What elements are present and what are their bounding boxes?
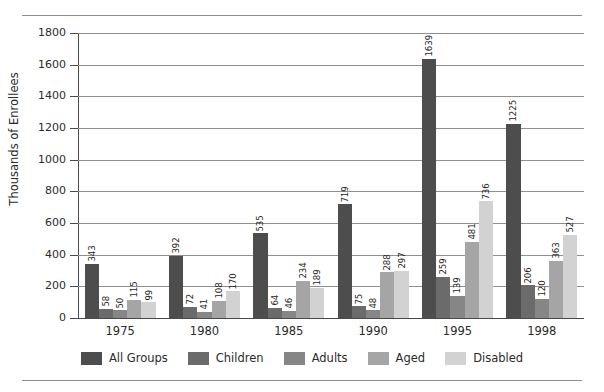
bar-value-label: 189 <box>313 270 322 286</box>
y-axis-tick-label: 1400 <box>20 89 66 102</box>
bar-group: 1225206120363527 <box>506 33 577 318</box>
bar-value-label: 736 <box>482 183 491 199</box>
bar-value-label: 719 <box>340 186 349 202</box>
y-axis-tick <box>70 286 78 287</box>
bar-group: 1639259139481736 <box>422 33 493 318</box>
legend-item-label: Aged <box>396 351 426 365</box>
x-axis-tick-label: 1998 <box>500 324 584 338</box>
legend-item-label: All Groups <box>109 351 168 365</box>
y-axis-tick <box>70 33 78 34</box>
bar-value-label: 1225 <box>509 100 518 122</box>
bar[interactable]: 50 <box>113 310 127 318</box>
bar-value-label: 120 <box>538 281 547 297</box>
figure-bottom-rule <box>22 380 582 381</box>
bar[interactable]: 46 <box>282 311 296 318</box>
y-axis-tick <box>70 96 78 97</box>
bar[interactable]: 481 <box>465 242 479 318</box>
bar[interactable]: 343 <box>85 264 99 318</box>
bar[interactable]: 108 <box>212 301 226 318</box>
bar-value-label: 48 <box>369 297 378 308</box>
bar-value-label: 50 <box>116 297 125 308</box>
bar-value-label: 259 <box>439 259 448 275</box>
y-axis-tick <box>70 160 78 161</box>
bar[interactable]: 206 <box>521 285 535 318</box>
y-axis-tick-label: 0 <box>20 311 66 324</box>
bar[interactable]: 48 <box>366 310 380 318</box>
legend-item-children[interactable]: Children <box>188 351 264 365</box>
bar[interactable]: 736 <box>479 201 493 318</box>
figure-top-rule <box>22 15 582 16</box>
y-axis-tick <box>70 128 78 129</box>
y-axis-tick-label: 1800 <box>20 26 66 39</box>
legend-item-all-groups[interactable]: All Groups <box>81 351 168 365</box>
bar[interactable]: 120 <box>535 299 549 318</box>
legend-swatch-icon <box>445 352 466 365</box>
legend-item-label: Children <box>216 351 264 365</box>
bar-value-label: 72 <box>186 294 195 305</box>
bar-value-label: 481 <box>467 223 476 239</box>
bar-value-label: 288 <box>383 254 392 270</box>
y-axis-tick <box>70 318 78 319</box>
legend-item-adults[interactable]: Adults <box>284 351 348 365</box>
bar-value-label: 234 <box>299 263 308 279</box>
bar[interactable]: 115 <box>127 300 141 318</box>
legend-swatch-icon <box>284 352 305 365</box>
x-axis-tick-label: 1995 <box>415 324 499 338</box>
bar-value-label: 41 <box>200 299 209 310</box>
bar[interactable]: 1225 <box>506 124 520 318</box>
x-axis-tick-label: 1975 <box>78 324 162 338</box>
chart-figure: Thousands of Enrollees 02004006008001000… <box>0 0 604 392</box>
bar[interactable]: 535 <box>253 233 267 318</box>
bars-area: 3435850115993927241108170535644623418971… <box>78 33 584 318</box>
bar[interactable]: 297 <box>394 271 408 318</box>
bar[interactable]: 99 <box>141 302 155 318</box>
bar[interactable]: 392 <box>169 256 183 318</box>
bar-group: 3927241108170 <box>169 33 240 318</box>
x-axis-tick-label: 1985 <box>247 324 331 338</box>
legend-item-label: Adults <box>312 351 348 365</box>
bar[interactable]: 58 <box>99 309 113 318</box>
bar-value-label: 363 <box>552 242 561 258</box>
bar-value-label: 64 <box>270 295 279 306</box>
y-axis-tick <box>70 191 78 192</box>
bar-value-label: 297 <box>397 253 406 269</box>
legend-item-disabled[interactable]: Disabled <box>445 351 523 365</box>
bar[interactable]: 139 <box>450 296 464 318</box>
y-axis-tick-label: 400 <box>20 248 66 261</box>
bar-value-label: 392 <box>172 238 181 254</box>
legend-item-aged[interactable]: Aged <box>368 351 426 365</box>
legend-swatch-icon <box>81 352 102 365</box>
bar[interactable]: 363 <box>549 261 563 318</box>
y-axis-title: Thousands of Enrollees <box>7 0 21 329</box>
bar[interactable]: 1639 <box>422 59 436 319</box>
bar[interactable]: 170 <box>226 291 240 318</box>
bar-value-label: 46 <box>285 298 294 309</box>
bar[interactable]: 189 <box>310 288 324 318</box>
bar[interactable]: 259 <box>436 277 450 318</box>
bar-group: 343585011599 <box>85 33 156 318</box>
bar-value-label: 170 <box>229 273 238 289</box>
bar-value-label: 343 <box>87 245 96 261</box>
x-axis-tick-label: 1980 <box>162 324 246 338</box>
y-axis-tick-label: 1200 <box>20 121 66 134</box>
bar[interactable]: 719 <box>338 204 352 318</box>
bar[interactable]: 527 <box>563 235 577 318</box>
bar[interactable]: 234 <box>296 281 310 318</box>
y-axis-tick-label: 1000 <box>20 153 66 166</box>
bar-value-label: 527 <box>566 216 575 232</box>
legend-item-label: Disabled <box>473 351 523 365</box>
bar[interactable]: 75 <box>352 306 366 318</box>
bar[interactable]: 288 <box>380 272 394 318</box>
y-axis-tick <box>70 223 78 224</box>
y-axis-tick <box>70 255 78 256</box>
y-axis-tick-label: 200 <box>20 279 66 292</box>
bar-group: 7197548288297 <box>338 33 409 318</box>
y-axis-tick-label: 600 <box>20 216 66 229</box>
bar[interactable]: 41 <box>197 312 211 318</box>
bar-value-label: 99 <box>144 289 153 300</box>
bar-value-label: 1639 <box>425 35 434 57</box>
bar[interactable]: 64 <box>268 308 282 318</box>
bar-value-label: 115 <box>130 281 139 297</box>
y-axis-tick <box>70 65 78 66</box>
bar[interactable]: 72 <box>183 307 197 318</box>
